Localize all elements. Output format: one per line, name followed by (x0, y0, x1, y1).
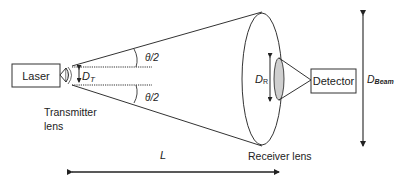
transmitter-lens-label: Transmitter lens (44, 106, 97, 132)
dt-label: D (82, 70, 90, 82)
theta-bottom-label: θ/2 (145, 92, 159, 103)
transmitter-lens (60, 67, 72, 84)
svg-text:lens: lens (44, 120, 63, 132)
laser-block: Laser (12, 64, 60, 87)
detector-label: Detector (313, 75, 355, 87)
dt-dimension: DT (79, 69, 96, 84)
length-label: L (160, 149, 166, 161)
beam-cone (72, 12, 262, 146)
receiver-lens-label: Receiver lens (248, 150, 312, 162)
detector-block: Detector (311, 69, 356, 93)
dr-dimension: DR (255, 57, 270, 101)
svg-text:DT: DT (82, 70, 96, 84)
svg-text:DR: DR (255, 73, 268, 85)
svg-text:Transmitter: Transmitter (44, 106, 97, 118)
laser-label: Laser (22, 70, 50, 82)
dr-label: D (255, 73, 263, 85)
receiver-lens (274, 58, 311, 100)
optical-link-diagram: Laser DT θ/2 θ/2 Transmitter lens (0, 0, 399, 186)
theta-top-label: θ/2 (145, 52, 159, 63)
dbeam-dimension: DBeam (363, 15, 394, 146)
svg-text:DBeam: DBeam (367, 73, 394, 85)
divergence-angle-arcs: θ/2 θ/2 (134, 49, 159, 103)
